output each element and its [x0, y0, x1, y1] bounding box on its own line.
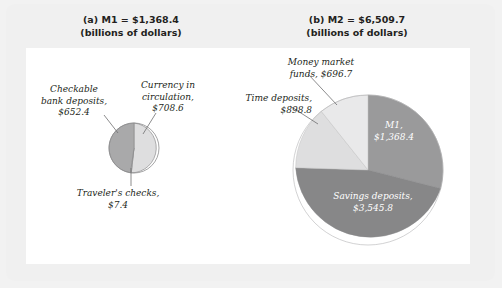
slice-checkable-bank-deposits[interactable] [109, 123, 134, 173]
label-savings-line1: Savings deposits, [318, 191, 428, 203]
label-travelers-checks: Traveler's checks, $7.4 [62, 188, 174, 211]
label-time-line2: $898.8 [208, 105, 312, 117]
label-checkable-line2: bank deposits, [22, 96, 126, 108]
label-checkable-bank-deposits: Checkable bank deposits, $652.4 [22, 84, 126, 119]
label-m1-line2: $1,368.4 [358, 132, 430, 144]
label-mmf-line2: funds, $696.7 [268, 69, 374, 81]
label-currency-line3: $708.6 [128, 103, 208, 115]
figure-container: (a) M1 = $1,368.4 (billions of dollars) … [0, 0, 502, 288]
label-currency-line1: Currency in [128, 80, 208, 92]
label-m1-slice: M1, $1,368.4 [358, 120, 430, 143]
label-savings-deposits: Savings deposits, $3,545.8 [318, 191, 428, 214]
label-savings-line2: $3,545.8 [318, 203, 428, 215]
label-mmf-line1: Money market [268, 57, 374, 69]
label-time-deposits: Time deposits, $898.8 [208, 93, 312, 116]
label-travelers-line1: Traveler's checks, [62, 188, 174, 200]
label-currency-line2: circulation, [128, 92, 208, 104]
label-travelers-line2: $7.4 [62, 200, 174, 212]
panel-a-title-line2: (billions of dollars) [56, 27, 206, 40]
label-checkable-line1: Checkable [22, 84, 126, 96]
panel-a-title: (a) M1 = $1,368.4 (billions of dollars) [56, 14, 206, 39]
label-m1-line1: M1, [358, 120, 430, 132]
label-money-market-funds: Money market funds, $696.7 [268, 57, 374, 80]
panel-b-title-line2: (billions of dollars) [278, 27, 436, 40]
panel-b-title-line1: (b) M2 = $6,509.7 [309, 14, 405, 25]
label-currency-in-circulation: Currency in circulation, $708.6 [128, 80, 208, 115]
panel-a-title-line1: (a) M1 = $1,368.4 [83, 14, 179, 25]
pie-charts-artwork [0, 0, 502, 288]
pie-chart-m2 [293, 95, 443, 245]
label-checkable-line3: $652.4 [22, 107, 126, 119]
label-time-line1: Time deposits, [208, 93, 312, 105]
panel-b-title: (b) M2 = $6,509.7 (billions of dollars) [278, 14, 436, 39]
